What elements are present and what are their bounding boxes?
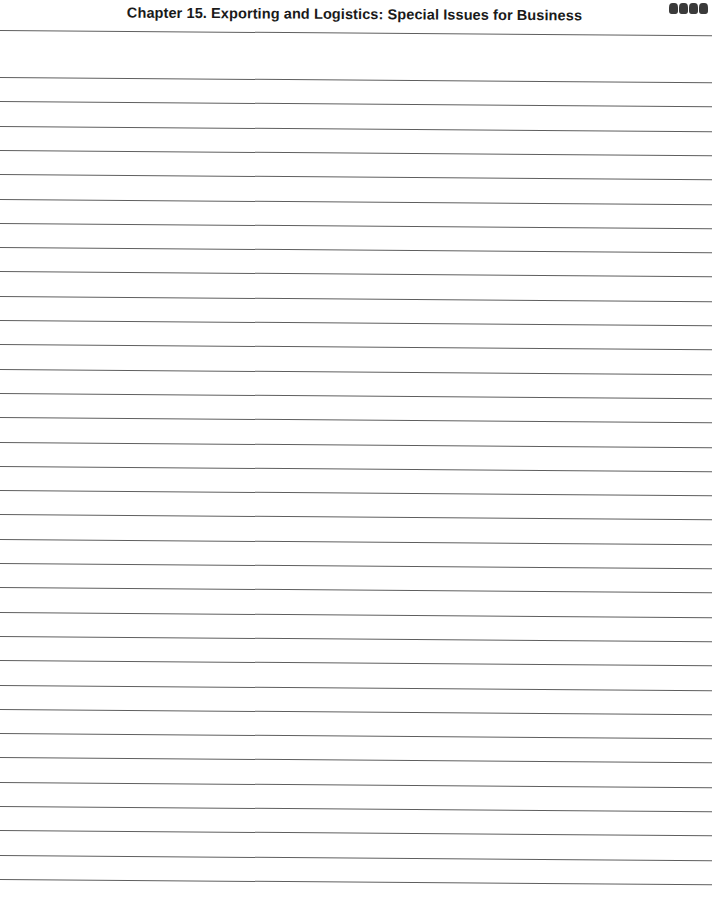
ruled-line — [0, 30, 712, 36]
ruled-line — [0, 174, 712, 180]
ruled-line — [0, 417, 712, 423]
ruled-line — [0, 636, 712, 642]
ruled-line — [0, 247, 712, 253]
ruled-line — [0, 830, 712, 836]
ruled-line — [0, 271, 712, 277]
ruled-line — [0, 199, 712, 205]
ruled-line — [0, 320, 712, 326]
ruled-line — [0, 855, 712, 861]
ruled-line — [0, 782, 712, 788]
ruled-line — [0, 514, 712, 520]
ruled-line — [0, 539, 712, 545]
ruled-line — [0, 101, 712, 107]
ruled-line — [0, 466, 712, 472]
ruled-line — [0, 879, 712, 885]
ruled-line — [0, 490, 712, 496]
ruled-line — [0, 126, 712, 132]
ruled-line — [0, 296, 712, 302]
publisher-logo-icon — [669, 0, 709, 14]
ruled-line — [0, 344, 712, 350]
ruled-line — [0, 393, 712, 399]
ruled-line — [0, 660, 712, 666]
ruled-line — [0, 587, 712, 593]
chapter-title: Chapter 15. Exporting and Logistics: Spe… — [0, 4, 709, 24]
ruled-line — [0, 709, 712, 715]
ruled-line — [0, 733, 712, 739]
ruled-line — [0, 563, 712, 569]
ruled-line — [0, 369, 712, 375]
ruled-line — [0, 150, 712, 156]
ruled-line — [0, 757, 712, 763]
ruled-line — [0, 442, 712, 448]
ruled-line — [0, 806, 712, 812]
ruled-line — [0, 77, 712, 83]
ruled-line — [0, 685, 712, 691]
ruled-line — [0, 223, 712, 229]
ruled-line — [0, 612, 712, 618]
